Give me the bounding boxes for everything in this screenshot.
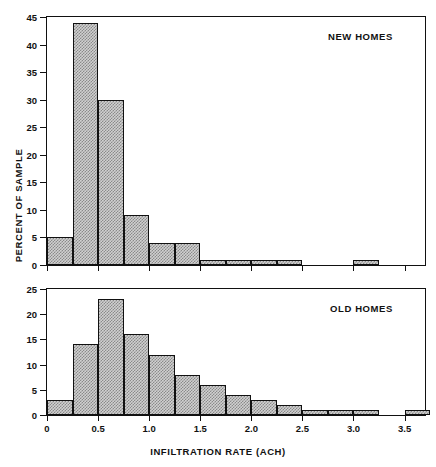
- bar: [124, 215, 150, 265]
- panel-new-homes: NEW HOMES 051015202530354045: [46, 16, 426, 266]
- x-tick-label: 1.0: [143, 423, 156, 434]
- x-tick: [302, 265, 303, 271]
- y-tick-label: 40: [26, 39, 37, 50]
- x-tick: [405, 415, 406, 421]
- bar: [149, 243, 175, 265]
- y-tick-label: 15: [26, 177, 37, 188]
- plot-area-new-homes: 051015202530354045: [47, 17, 425, 265]
- y-tick: [40, 155, 47, 156]
- y-tick-label: 10: [26, 204, 37, 215]
- x-axis-label: INFILTRATION RATE (ACH): [0, 446, 436, 457]
- x-tick-label: 0.5: [91, 423, 104, 434]
- x-tick: [405, 265, 406, 271]
- bar: [73, 23, 99, 265]
- y-tick-label: 10: [26, 359, 37, 370]
- x-tick: [353, 265, 354, 271]
- y-tick: [40, 289, 47, 290]
- y-tick-label: 5: [32, 384, 37, 395]
- bar: [353, 410, 379, 415]
- bar: [251, 400, 277, 415]
- panel-old-homes: OLD HOMES 051015202500.51.01.52.02.53.03…: [46, 288, 426, 416]
- bar: [73, 344, 99, 415]
- bar: [200, 260, 226, 266]
- x-tick: [47, 265, 48, 271]
- y-tick: [40, 127, 47, 128]
- y-tick-label: 20: [26, 309, 37, 320]
- y-tick-label: 30: [26, 94, 37, 105]
- y-tick: [40, 100, 47, 101]
- x-tick-label: 3.0: [347, 423, 360, 434]
- bar: [47, 237, 73, 265]
- x-tick: [200, 265, 201, 271]
- y-tick-label: 5: [32, 232, 37, 243]
- y-tick: [40, 339, 47, 340]
- y-tick: [40, 72, 47, 73]
- y-tick: [40, 390, 47, 391]
- y-tick-label: 35: [26, 67, 37, 78]
- x-tick: [98, 265, 99, 271]
- bar: [98, 299, 124, 415]
- x-tick: [251, 415, 252, 421]
- x-tick-label: 2.5: [296, 423, 309, 434]
- bar: [251, 260, 277, 266]
- bar: [200, 385, 226, 415]
- x-tick: [98, 415, 99, 421]
- bar: [226, 395, 252, 415]
- bar: [47, 400, 73, 415]
- y-tick: [40, 365, 47, 366]
- x-tick: [302, 415, 303, 421]
- y-tick: [40, 265, 47, 266]
- x-tick: [149, 415, 150, 421]
- y-tick: [40, 237, 47, 238]
- y-tick-label: 20: [26, 149, 37, 160]
- x-tick-label: 2.0: [245, 423, 258, 434]
- bar: [405, 410, 431, 415]
- bar: [353, 260, 379, 266]
- y-tick-label: 25: [26, 122, 37, 133]
- plot-area-old-homes: 051015202500.51.01.52.02.53.03.5: [47, 289, 425, 415]
- bar: [175, 243, 201, 265]
- y-tick: [40, 314, 47, 315]
- bar: [124, 334, 150, 415]
- bar: [302, 410, 328, 415]
- x-tick-label: 1.5: [194, 423, 207, 434]
- x-tick: [251, 265, 252, 271]
- x-tick: [353, 415, 354, 421]
- bar: [149, 355, 175, 415]
- chart-figure: PERCENT OF SAMPLE NEW HOMES 051015202530…: [0, 0, 436, 467]
- x-tick-label: 3.5: [398, 423, 411, 434]
- y-tick-label: 45: [26, 12, 37, 23]
- bar: [277, 405, 303, 415]
- x-tick-label: 0: [44, 423, 49, 434]
- bar: [328, 410, 354, 415]
- bar: [175, 375, 201, 415]
- y-tick: [40, 210, 47, 211]
- bar: [98, 100, 124, 265]
- y-tick-label: 0: [32, 260, 37, 271]
- y-tick-label: 15: [26, 334, 37, 345]
- y-tick: [40, 17, 47, 18]
- y-axis-label: PERCENT OF SAMPLE: [13, 126, 24, 286]
- y-tick: [40, 182, 47, 183]
- x-tick: [149, 265, 150, 271]
- y-tick-label: 25: [26, 284, 37, 295]
- bar: [277, 260, 303, 266]
- x-tick: [200, 415, 201, 421]
- y-tick: [40, 45, 47, 46]
- y-tick-label: 0: [32, 410, 37, 421]
- x-tick: [47, 415, 48, 421]
- y-tick: [40, 415, 47, 416]
- bar: [226, 260, 252, 266]
